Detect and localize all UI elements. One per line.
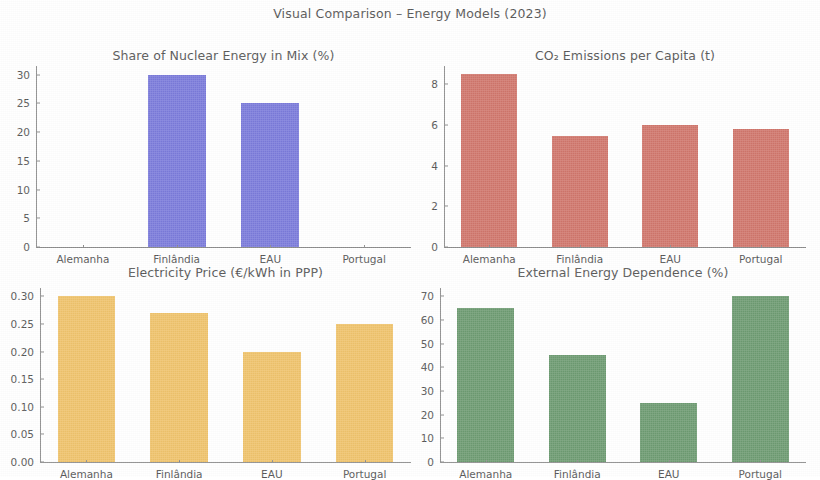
y-tick-mark (36, 103, 40, 104)
y-tick-label: 40 (421, 361, 440, 373)
x-tick-label: EAU (260, 248, 282, 265)
x-tick-label: Portugal (343, 463, 387, 480)
bar (150, 313, 208, 462)
y-tick-mark (440, 319, 444, 320)
x-tick-mark (489, 245, 490, 248)
bar (642, 125, 698, 247)
y-tick-label: 20 (421, 409, 440, 421)
y-tick-mark (40, 406, 44, 407)
y-tick-label: 0 (23, 241, 36, 253)
y-tick-label: 15 (17, 155, 36, 167)
y-tick-label: 4 (431, 160, 444, 172)
y-tick-label: 0 (431, 241, 444, 253)
subplot-nuclear-share: Share of Nuclear Energy in Mix (%)051015… (36, 48, 411, 248)
bar (148, 75, 206, 247)
y-tick-mark (440, 296, 444, 297)
y-tick-label: 6 (431, 119, 444, 131)
y-tick-label: 60 (421, 314, 440, 326)
x-tick-label: Alemanha (56, 248, 109, 265)
y-axis-line (36, 66, 37, 248)
y-tick-mark (440, 343, 444, 344)
y-tick-label: 50 (421, 338, 440, 350)
y-tick-mark (440, 390, 444, 391)
x-tick-mark (272, 460, 273, 463)
y-tick-label: 30 (421, 385, 440, 397)
y-tick-label: 5 (23, 212, 36, 224)
y-tick-mark (444, 84, 448, 85)
x-tick-mark (177, 245, 178, 248)
x-tick-mark (580, 245, 581, 248)
y-tick-mark (36, 218, 40, 219)
y-tick-mark (444, 247, 448, 248)
y-axis-line (440, 288, 441, 463)
y-tick-label: 0.05 (11, 428, 40, 440)
y-tick-mark (36, 160, 40, 161)
y-tick-mark (444, 206, 448, 207)
bar (640, 403, 697, 462)
x-tick-mark (669, 460, 670, 463)
y-tick-mark (440, 462, 444, 463)
y-tick-label: 10 (17, 184, 36, 196)
y-axis-line (444, 66, 445, 248)
y-tick-mark (444, 165, 448, 166)
plot-area-electricity-price: 0.000.050.100.150.200.250.30AlemanhaFinl… (40, 288, 411, 463)
subplot-title-nuclear-share: Share of Nuclear Energy in Mix (%) (36, 48, 411, 63)
x-tick-label: Finlândia (156, 463, 203, 480)
y-tick-label: 0.30 (11, 290, 40, 302)
bar (461, 74, 517, 247)
x-tick-label: Portugal (739, 463, 783, 480)
bar (552, 136, 608, 247)
y-tick-mark (440, 367, 444, 368)
x-tick-label: Alemanha (463, 248, 516, 265)
y-tick-label: 10 (421, 432, 440, 444)
bar (732, 296, 789, 462)
plot-area-co2-emissions: 02468AlemanhaFinlândiaEAUPortugal (444, 66, 806, 248)
y-tick-label: 0.00 (11, 456, 40, 468)
x-tick-mark (486, 460, 487, 463)
x-tick-label: Finlândia (554, 463, 601, 480)
y-tick-mark (40, 434, 44, 435)
figure-suptitle: Visual Comparison – Energy Models (2023) (0, 6, 820, 21)
x-tick-label: Portugal (342, 248, 386, 265)
y-tick-mark (36, 247, 40, 248)
x-tick-label: EAU (659, 248, 681, 265)
y-tick-mark (444, 124, 448, 125)
subplot-co2-emissions: CO₂ Emissions per Capita (t)02468Alemanh… (444, 48, 806, 248)
x-tick-mark (179, 460, 180, 463)
subplot-title-electricity-price: Electricity Price (€/kWh in PPP) (40, 265, 411, 280)
y-tick-label: 8 (431, 78, 444, 90)
x-tick-mark (270, 245, 271, 248)
subplot-title-co2-emissions: CO₂ Emissions per Capita (t) (444, 48, 806, 63)
x-tick-mark (760, 460, 761, 463)
bar (549, 355, 606, 462)
y-tick-mark (36, 74, 40, 75)
y-tick-label: 70 (421, 290, 440, 302)
y-tick-mark (440, 438, 444, 439)
y-tick-mark (40, 323, 44, 324)
y-tick-label: 20 (17, 126, 36, 138)
x-tick-mark (670, 245, 671, 248)
y-tick-label: 0 (427, 456, 440, 468)
x-tick-label: EAU (261, 463, 283, 480)
y-tick-mark (40, 379, 44, 380)
y-tick-label: 0.10 (11, 401, 40, 413)
x-tick-mark (365, 460, 366, 463)
plot-area-energy-dependence: 010203040506070AlemanhaFinlândiaEAUPortu… (440, 288, 806, 463)
x-tick-label: Alemanha (459, 463, 512, 480)
x-tick-mark (577, 460, 578, 463)
bar (241, 103, 299, 247)
y-tick-label: 30 (17, 69, 36, 81)
subplot-energy-dependence: External Energy Dependence (%)0102030405… (440, 265, 806, 463)
x-tick-mark (83, 245, 84, 248)
y-axis-line (40, 288, 41, 463)
plot-area-nuclear-share: 051015202530AlemanhaFinlândiaEAUPortugal (36, 66, 411, 248)
x-tick-mark (86, 460, 87, 463)
subplot-title-energy-dependence: External Energy Dependence (%) (440, 265, 806, 280)
x-tick-mark (761, 245, 762, 248)
y-tick-label: 0.25 (11, 318, 40, 330)
x-tick-label: Finlândia (556, 248, 603, 265)
y-tick-label: 0.15 (11, 373, 40, 385)
x-tick-label: Finlândia (153, 248, 200, 265)
x-tick-mark (364, 245, 365, 248)
